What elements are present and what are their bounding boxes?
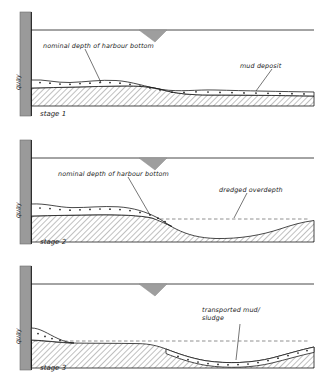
label-transported-mud-sludge: transported mud/ sludge bbox=[202, 306, 276, 322]
leader-transported-mud bbox=[236, 324, 240, 360]
panel-stage-2: quay nominal depth of harbour bottom dre… bbox=[0, 130, 316, 252]
ship-hull-icon bbox=[139, 30, 167, 42]
quay-wall bbox=[20, 12, 31, 116]
stage-label-1: stage 1 bbox=[40, 110, 66, 118]
quay-label: quay bbox=[14, 328, 22, 344]
label-nominal-depth: nominal depth of harbour bottom bbox=[58, 170, 169, 178]
label-dredged-overdepth: dredged overdepth bbox=[219, 186, 283, 194]
quay-label: quay bbox=[14, 74, 22, 90]
quay-label: quay bbox=[14, 202, 22, 218]
stage-label-2: stage 2 bbox=[40, 238, 66, 246]
label-mud-deposit: mud deposit bbox=[240, 62, 281, 70]
quay-wall bbox=[20, 140, 31, 244]
ship-hull-icon bbox=[139, 284, 167, 296]
figure-canvas: quay nominal depth of harbour bottom mud… bbox=[0, 0, 316, 385]
leader-nominal-depth bbox=[85, 49, 101, 83]
leader-dredged-overdepth bbox=[234, 193, 247, 218]
panel-stage-1: quay nominal depth of harbour bottom mud… bbox=[0, 2, 316, 124]
stage-label-3: stage 3 bbox=[40, 364, 66, 372]
ship-hull-icon bbox=[139, 158, 167, 170]
leader-mud-deposit bbox=[256, 69, 272, 91]
quay-wall bbox=[20, 266, 31, 370]
label-nominal-depth: nominal depth of harbour bottom bbox=[43, 42, 154, 50]
panel-stage-3: quay transported mud/ sludge stage 3 bbox=[0, 256, 316, 378]
